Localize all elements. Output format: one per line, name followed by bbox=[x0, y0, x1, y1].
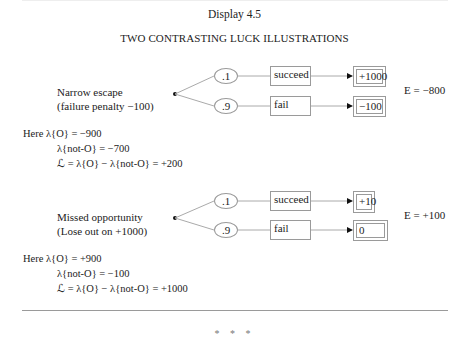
calc-line-1: Here λ{O} = −900 bbox=[23, 126, 102, 141]
outcome-value: +1000 bbox=[356, 69, 383, 84]
outcome-box: −100 bbox=[353, 96, 386, 117]
calc-line-3: ℒ = λ{O} − λ{not-O} = +1000 bbox=[57, 281, 188, 296]
calc-line-1: Here λ{O} = +900 bbox=[23, 251, 102, 266]
section-divider bbox=[22, 310, 448, 311]
calc-line-2: λ{not-O} = −100 bbox=[57, 266, 130, 281]
calc-line-2: λ{not-O} = −700 bbox=[57, 141, 130, 156]
outcome-box: 0 bbox=[353, 220, 388, 241]
event-box-fail: fail bbox=[270, 96, 311, 116]
expected-value: E = +100 bbox=[404, 209, 445, 221]
outcome-value: −100 bbox=[356, 99, 383, 114]
illustration-title: Narrow escape bbox=[57, 85, 123, 99]
outcome-value: 0 bbox=[356, 223, 385, 238]
probability-node: .1 bbox=[214, 68, 238, 84]
outcome-box: +1000 bbox=[353, 66, 386, 87]
probability-node: .1 bbox=[214, 193, 238, 209]
calc-line-3: ℒ = λ{O} − λ{not-O} = +200 bbox=[57, 156, 183, 171]
expected-value: E = −800 bbox=[404, 84, 445, 96]
illustration-title: Missed opportunity bbox=[57, 210, 143, 224]
outcome-box: +10 bbox=[353, 191, 375, 213]
event-box-fail: fail bbox=[270, 220, 311, 240]
probability-node: .9 bbox=[214, 98, 238, 114]
event-box-succeed: succeed bbox=[270, 66, 311, 86]
illustration-subtitle: (failure penalty −100) bbox=[57, 99, 154, 113]
probability-node: .9 bbox=[214, 222, 238, 238]
section-separator: * * * bbox=[0, 328, 469, 339]
outcome-value: +10 bbox=[356, 194, 372, 210]
illustration-subtitle: (Lose out on +1000) bbox=[57, 224, 147, 238]
event-box-succeed: succeed bbox=[270, 191, 311, 211]
